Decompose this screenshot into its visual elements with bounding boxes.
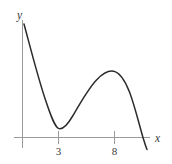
plot-canvas: y x 3 8 — [0, 0, 172, 164]
x-axis-label: x — [154, 132, 161, 144]
function-graph-figure: y x 3 8 — [0, 0, 172, 164]
y-axis-label: y — [16, 9, 23, 22]
x-tick-label-8: 8 — [112, 145, 118, 157]
x-tick-label-3: 3 — [56, 145, 62, 157]
function-curve — [24, 24, 147, 150]
